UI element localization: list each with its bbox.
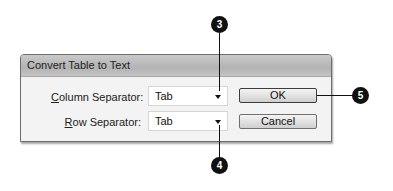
dialog-title: Convert Table to Text	[27, 59, 130, 71]
column-separator-label: Column Separator:	[51, 91, 141, 103]
callout-3-badge: 3	[211, 16, 228, 33]
dialog-titlebar: Convert Table to Text	[21, 55, 331, 77]
callout-4-leader-line	[219, 125, 220, 159]
callout-3-leader-line	[219, 33, 220, 91]
ok-button[interactable]: OK	[239, 88, 317, 103]
row-separator-label: Row Separator:	[51, 116, 141, 128]
row-separator-dropdown[interactable]: Tab	[148, 111, 228, 131]
cancel-button[interactable]: Cancel	[239, 114, 317, 129]
callout-5-badge: 5	[352, 87, 369, 104]
dropdown-arrow-icon[interactable]	[215, 95, 221, 99]
dropdown-arrow-icon[interactable]	[215, 120, 221, 124]
column-separator-dropdown[interactable]: Tab	[148, 86, 228, 106]
callout-5-leader-line	[317, 95, 354, 96]
column-separator-value: Tab	[155, 90, 173, 102]
convert-table-to-text-dialog: Convert Table to Text Column Separator: …	[20, 54, 332, 142]
screenshot-stage: Convert Table to Text Column Separator: …	[0, 0, 393, 191]
callout-4-badge: 4	[211, 157, 228, 174]
row-separator-value: Tab	[155, 115, 173, 127]
